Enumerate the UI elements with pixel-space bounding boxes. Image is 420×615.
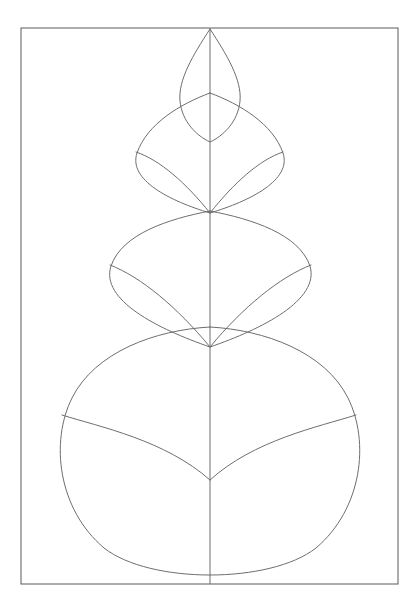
leaf-illustration [0,0,420,615]
leaf-vein-tier-4-left [62,415,210,480]
leaf-vein-tier-4-right [210,415,356,480]
leaf-drawing-artboard [0,0,420,615]
